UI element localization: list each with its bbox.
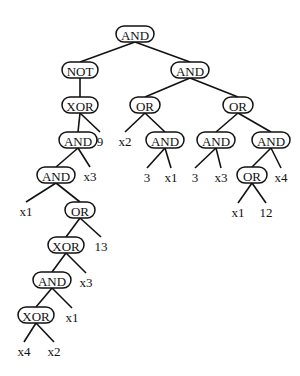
operator-node-xor: XOR — [48, 237, 84, 254]
node-label: 13 — [95, 239, 108, 254]
operator-node-and: AND — [33, 272, 71, 289]
operator-node-or: OR — [237, 167, 267, 184]
leaf-node: x3 — [215, 170, 228, 185]
tree-edge — [190, 78, 238, 97]
node-label: XOR — [52, 239, 80, 254]
leaf-node: x2 — [48, 344, 61, 359]
leaf-node: x3 — [80, 275, 93, 290]
tree-edge — [145, 78, 190, 97]
node-label: AND — [257, 134, 285, 149]
tree-edge — [80, 218, 101, 237]
leaf-node: 13 — [95, 239, 108, 254]
leaf-node: 12 — [260, 205, 273, 220]
node-label: x3 — [80, 275, 93, 290]
tree-edges — [24, 42, 281, 342]
node-label: x2 — [119, 134, 132, 149]
tree-edge — [125, 113, 145, 132]
tree-nodes: ANDNOTANDXORORORAND9x2ANDANDANDANDx33x13… — [18, 26, 291, 359]
operator-node-and: AND — [59, 132, 97, 149]
node-label: AND — [176, 64, 204, 79]
node-label: 12 — [260, 205, 273, 220]
tree-edge — [147, 148, 165, 168]
tree-edge — [216, 148, 221, 168]
node-label: 9 — [97, 134, 104, 149]
tree-edge — [56, 148, 78, 167]
node-label: AND — [202, 134, 230, 149]
leaf-node: x1 — [232, 205, 245, 220]
tree-edge — [195, 148, 216, 168]
tree-edge — [36, 288, 52, 307]
tree-edge — [271, 148, 281, 168]
leaf-node: 9 — [97, 134, 104, 149]
node-label: x1 — [66, 310, 79, 325]
tree-edge — [145, 113, 165, 132]
operator-node-xor: XOR — [18, 307, 54, 324]
operator-node-or: OR — [65, 202, 95, 219]
tree-edge — [238, 113, 271, 132]
leaf-node: 3 — [192, 170, 199, 185]
node-label: x4 — [275, 170, 289, 185]
node-label: OR — [243, 169, 261, 184]
leaf-node: x1 — [66, 310, 79, 325]
expression-tree: ANDNOTANDXORORORAND9x2ANDANDANDANDx33x13… — [0, 0, 300, 376]
tree-edge — [80, 42, 135, 62]
leaf-node: x3 — [84, 169, 97, 184]
tree-edge — [165, 148, 171, 168]
node-label: XOR — [22, 309, 50, 324]
operator-node-or: OR — [130, 97, 160, 114]
node-label: x1 — [165, 170, 178, 185]
tree-edge — [78, 148, 90, 167]
node-label: x4 — [18, 344, 32, 359]
tree-edge — [52, 288, 72, 308]
tree-edge — [80, 113, 100, 132]
tree-edge — [252, 183, 266, 203]
leaf-node: x2 — [119, 134, 132, 149]
node-label: 3 — [192, 170, 199, 185]
node-label: x1 — [20, 204, 33, 219]
node-label: x3 — [84, 169, 97, 184]
node-label: x1 — [232, 205, 245, 220]
tree-edge — [36, 323, 54, 342]
node-label: NOT — [67, 64, 94, 79]
node-label: AND — [121, 28, 149, 43]
leaf-node: x4 — [18, 344, 32, 359]
tree-edge — [24, 323, 36, 342]
operator-node-xor: XOR — [62, 97, 98, 114]
node-label: AND — [38, 274, 66, 289]
node-label: AND — [42, 169, 70, 184]
node-label: OR — [71, 204, 89, 219]
operator-node-and: AND — [37, 167, 75, 184]
tree-edge — [66, 218, 80, 237]
node-label: x2 — [48, 344, 61, 359]
operator-node-and: AND — [252, 132, 290, 149]
tree-edge — [135, 42, 190, 62]
tree-edge — [66, 253, 86, 273]
node-label: AND — [151, 134, 179, 149]
tree-edge — [78, 113, 80, 132]
tree-edge — [26, 183, 56, 202]
operator-node-and: AND — [197, 132, 235, 149]
node-label: OR — [229, 99, 247, 114]
tree-edge — [238, 183, 252, 203]
tree-edge — [56, 183, 80, 202]
operator-node-or: OR — [223, 97, 253, 114]
leaf-node: x4 — [275, 170, 289, 185]
node-label: XOR — [66, 99, 94, 114]
leaf-node: x1 — [20, 204, 33, 219]
leaf-node: x1 — [165, 170, 178, 185]
node-label: OR — [136, 99, 154, 114]
tree-edge — [216, 113, 238, 132]
node-label: 3 — [144, 170, 151, 185]
operator-node-and: AND — [146, 132, 184, 149]
node-label: AND — [64, 134, 92, 149]
leaf-node: 3 — [144, 170, 151, 185]
tree-edge — [252, 148, 271, 167]
operator-node-and: AND — [171, 62, 209, 79]
operator-node-and: AND — [116, 26, 154, 43]
operator-node-not: NOT — [62, 62, 98, 79]
node-label: x3 — [215, 170, 228, 185]
tree-edge — [52, 253, 66, 272]
